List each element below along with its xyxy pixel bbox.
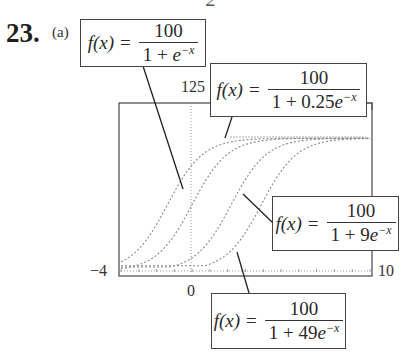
equals-sign: = [308, 213, 319, 235]
den-prefix: 1 + 49 [269, 322, 318, 343]
fraction: 100 1 + e−x [139, 21, 199, 65]
function-name: f(x) [217, 79, 243, 101]
numerator: 100 [150, 21, 187, 42]
denominator: 1 + 49e−x [265, 320, 344, 343]
graph-plot [0, 0, 412, 356]
formula-box-f3: f(x) = 100 1 + 9e−x [272, 196, 399, 251]
den-e: e [370, 225, 378, 246]
leader-line-f1 [143, 66, 183, 189]
fraction: 100 1 + 0.25e−x [268, 68, 361, 112]
formula-box-f4: f(x) = 100 1 + 49e−x [211, 293, 346, 349]
x-max-label: 10 [378, 262, 394, 280]
origin-label: 0 [187, 282, 195, 300]
denominator: 1 + 9e−x [327, 222, 396, 245]
fraction: 100 1 + 49e−x [265, 299, 344, 343]
equals-sign: = [246, 310, 257, 332]
function-name: f(x) [88, 32, 114, 54]
numerator: 100 [286, 299, 323, 320]
den-exponent: −x [181, 43, 194, 57]
den-prefix: 1 + [143, 44, 173, 65]
leader-line-f2 [225, 117, 232, 138]
formula-box-f2: f(x) = 100 1 + 0.25e−x [210, 63, 367, 117]
function-name: f(x) [214, 310, 240, 332]
function-name: f(x) [275, 213, 301, 235]
numerator: 100 [296, 68, 333, 89]
leader-line-f4 [237, 252, 249, 293]
den-exponent: −x [326, 321, 339, 335]
equals-sign: = [120, 32, 131, 54]
leader-line-f3 [243, 194, 272, 222]
denominator: 1 + e−x [139, 42, 199, 65]
formula-box-f1: f(x) = 100 1 + e−x [80, 19, 206, 67]
x-min-label: −4 [90, 262, 107, 280]
y-max-label: 125 [181, 78, 205, 96]
den-exponent: −x [378, 223, 391, 237]
equals-sign: = [249, 79, 260, 101]
denominator: 1 + 0.25e−x [268, 89, 361, 112]
den-e: e [317, 322, 325, 343]
den-e: e [335, 91, 343, 112]
den-prefix: 1 + 0.25 [272, 91, 335, 112]
den-e: e [172, 44, 180, 65]
fraction: 100 1 + 9e−x [327, 201, 396, 245]
numerator: 100 [343, 201, 380, 222]
den-exponent: −x [343, 90, 356, 104]
x-axis-ticks [121, 269, 370, 272]
den-prefix: 1 + 9 [331, 225, 370, 246]
